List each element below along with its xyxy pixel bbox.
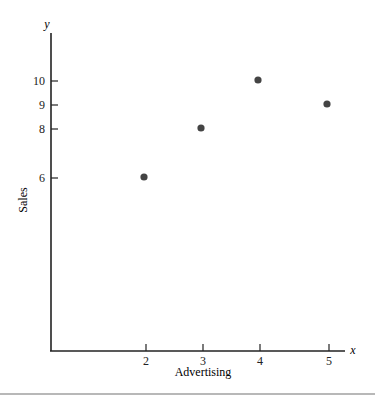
x-tick-label: 5 [326,354,332,368]
y-axis-label: Sales [16,187,30,213]
y-tick-label: 8 [39,122,45,136]
x-axis-label: Advertising [175,365,232,379]
y-axis-ticks: 68910 [33,74,58,185]
x-axis-symbol: x [349,343,356,357]
data-points [140,76,330,180]
y-tick-label: 9 [39,98,45,112]
data-point [254,76,261,83]
y-axis-symbol: y [43,17,50,31]
y-tick-label: 10 [33,74,45,88]
scatter-chart: 68910 2345 y x Advertising Sales [0,0,375,400]
bottom-rule-divider [0,393,375,395]
y-tick-label: 6 [39,171,45,185]
data-point [140,173,147,180]
data-point [323,100,330,107]
x-tick-label: 2 [143,354,149,368]
data-point [197,124,204,131]
x-axis-ticks: 2345 [143,344,332,368]
x-tick-label: 4 [257,354,263,368]
axes [50,33,345,351]
